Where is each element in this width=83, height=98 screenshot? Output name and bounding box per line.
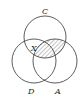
label-c: C — [42, 7, 48, 16]
label-x: X — [30, 44, 37, 53]
venn-diagram: C X D A — [0, 0, 83, 98]
label-d: D — [27, 87, 35, 96]
label-a: A — [54, 87, 61, 96]
